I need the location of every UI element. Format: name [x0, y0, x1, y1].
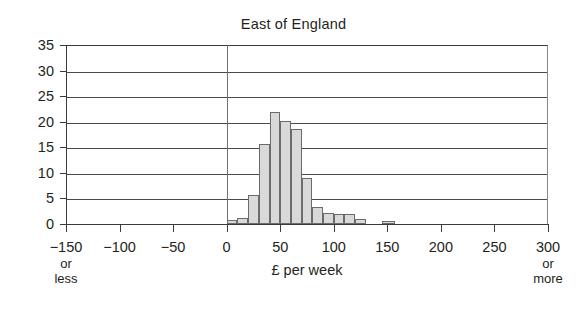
x-axis-label-value: 200 — [429, 239, 453, 255]
y-axis-tick — [60, 122, 67, 123]
x-axis-label-value: −50 — [161, 239, 186, 255]
histogram-bar — [237, 218, 248, 224]
y-axis-tick — [60, 147, 67, 148]
x-axis-label: 300ormore — [513, 239, 583, 287]
x-axis-tick — [548, 224, 549, 232]
x-axis-caption: £ per week — [217, 262, 397, 278]
y-axis-tick — [60, 198, 67, 199]
histogram-bar — [382, 221, 395, 224]
chart-root: East of England 05101520253035 −150orles… — [0, 0, 587, 316]
x-axis-label-value: 150 — [375, 239, 399, 255]
x-axis-label-value: 100 — [322, 239, 346, 255]
x-axis-label-value: 250 — [482, 239, 506, 255]
y-axis-tick — [60, 173, 67, 174]
histogram-bar — [248, 195, 259, 224]
x-axis-tick — [334, 224, 335, 232]
histogram-bar — [291, 129, 302, 224]
y-axis-label: 15 — [14, 140, 54, 155]
x-axis-line — [66, 224, 548, 225]
x-axis-tick — [66, 224, 67, 232]
x-axis-label-value: −100 — [103, 239, 136, 255]
x-axis-label-value: 0 — [223, 239, 231, 255]
x-axis-tick — [494, 224, 495, 232]
y-axis-tick — [60, 96, 67, 97]
x-axis-tick — [441, 224, 442, 232]
y-axis-label: 20 — [14, 115, 54, 130]
histogram-bar — [302, 178, 313, 224]
x-axis-label-note: more — [513, 271, 583, 287]
x-axis-label-value: −150 — [50, 239, 83, 255]
x-axis-label-value: 300 — [536, 239, 560, 255]
y-axis-label: 30 — [14, 64, 54, 79]
histogram-bar — [334, 214, 345, 224]
histogram-bar — [227, 220, 238, 224]
y-axis-label: 5 — [14, 191, 54, 206]
y-axis-label: 35 — [14, 38, 54, 53]
x-axis-label-note: less — [31, 271, 101, 287]
y-axis-label: 25 — [14, 89, 54, 104]
x-axis-tick — [280, 224, 281, 232]
histogram-bar — [344, 214, 355, 224]
x-axis-label-value: 50 — [272, 239, 288, 255]
histogram-bar — [355, 219, 366, 224]
x-axis-tick — [227, 224, 228, 232]
histogram-bars — [66, 45, 548, 224]
histogram-bar — [259, 144, 270, 224]
y-axis-label: 0 — [14, 217, 54, 232]
chart-title: East of England — [0, 16, 587, 32]
histogram-bar — [323, 213, 334, 224]
x-axis-tick — [387, 224, 388, 232]
histogram-bar — [312, 207, 323, 224]
y-axis-tick — [60, 45, 67, 46]
x-axis-tick — [120, 224, 121, 232]
y-axis-label: 10 — [14, 166, 54, 181]
x-axis-label-note: or — [31, 256, 101, 272]
x-axis-tick — [173, 224, 174, 232]
x-axis-label-note: or — [513, 256, 583, 272]
histogram-bar — [280, 121, 291, 224]
histogram-bar — [270, 112, 281, 225]
y-axis-tick — [60, 71, 67, 72]
